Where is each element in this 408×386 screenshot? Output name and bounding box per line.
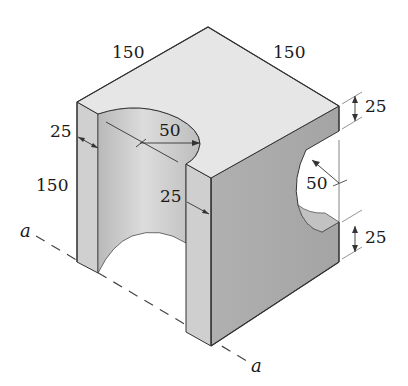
cylinder-cutout-surface — [98, 108, 200, 273]
dim-label-top-right: 150 — [273, 44, 305, 61]
diagram-canvas: 150 150 25 50 150 25 25 50 25 a a — [0, 0, 408, 386]
dim-label-front-wall: 25 — [160, 188, 182, 205]
dim-label-left-height: 150 — [36, 177, 68, 194]
dim-label-right-radius: 50 — [306, 175, 328, 192]
right-bottom-arrow-down — [352, 245, 358, 252]
axis-label-a-right: a — [251, 357, 262, 375]
dim-label-right-top: 25 — [365, 98, 387, 115]
front-pillar-left-face — [186, 164, 211, 346]
right-extension-line-1 — [342, 92, 362, 104]
dim-label-cutout-radius: 50 — [159, 122, 181, 139]
dim-label-right-bottom: 25 — [365, 229, 387, 246]
axis-label-a-left: a — [20, 222, 31, 240]
right-radius-tick — [333, 180, 347, 186]
right-extension-line-3 — [342, 210, 362, 222]
right-bottom-arrow-up — [352, 226, 358, 233]
right-extension-line-4 — [342, 247, 362, 259]
right-extension-line-2 — [342, 117, 362, 129]
left-wall-face — [77, 102, 98, 273]
dim-label-top-left: 150 — [112, 44, 144, 61]
dim-label-left-wall: 25 — [50, 123, 72, 140]
right-top-arrow-up — [352, 96, 358, 103]
